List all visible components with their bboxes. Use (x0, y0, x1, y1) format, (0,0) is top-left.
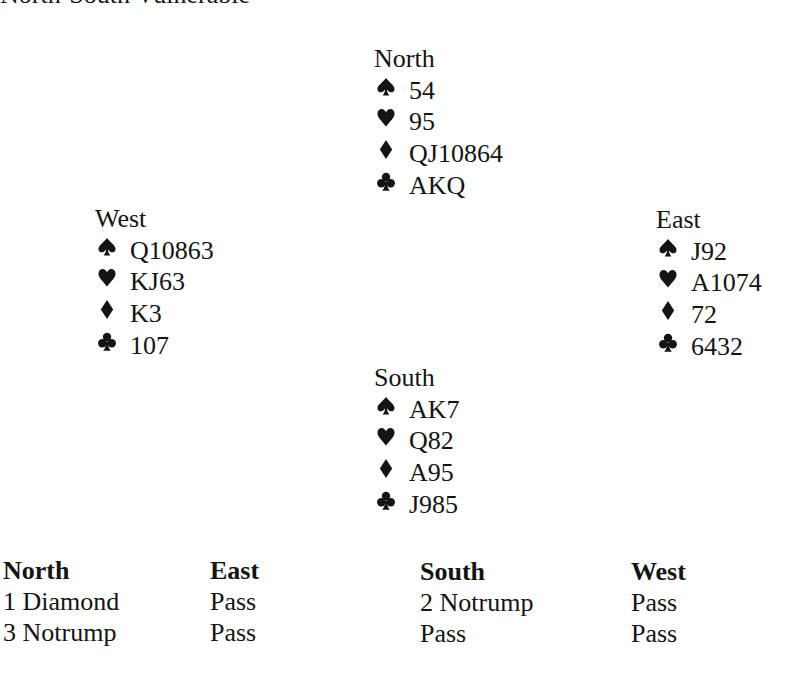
cards-diamonds: A95 (409, 457, 454, 489)
suit-row-clubs: 6432 (656, 331, 762, 363)
spade-icon (374, 396, 409, 416)
cards-diamonds: 72 (691, 299, 717, 331)
auction-header: North (3, 555, 119, 586)
suit-row-spades: J92 (656, 236, 762, 268)
diamond-icon (95, 300, 130, 320)
club-icon (374, 172, 409, 192)
cards-diamonds: QJ10864 (409, 138, 503, 170)
suit-row-diamonds: QJ10864 (374, 138, 503, 170)
cards-clubs: J985 (409, 489, 458, 521)
cards-diamonds: K3 (130, 298, 162, 330)
suit-row-diamonds: A95 (374, 457, 460, 489)
auction-bid: 2 Notrump (420, 587, 533, 618)
cards-clubs: 6432 (691, 331, 743, 363)
spade-icon (95, 237, 130, 257)
spade-icon (374, 77, 409, 97)
auction-column-north: North 1 Diamond 3 Notrump (3, 555, 119, 648)
cards-spades: J92 (691, 236, 727, 268)
suit-row-diamonds: 72 (656, 299, 762, 331)
cards-hearts: Q82 (409, 425, 454, 457)
club-icon (656, 333, 691, 353)
auction-bid: Pass (420, 618, 533, 649)
club-icon (374, 491, 409, 511)
auction-header: West (631, 556, 686, 587)
auction-column-west: West Pass Pass (631, 556, 686, 649)
hand-south: South AK7 Q82 A95 J985 (374, 362, 460, 520)
hand-label: North (374, 43, 503, 75)
diamond-icon (656, 301, 691, 321)
spade-icon (656, 238, 691, 258)
vulnerability-title: North-South Vulnerable (0, 0, 250, 11)
diamond-icon (374, 459, 409, 479)
hand-label: East (656, 204, 762, 236)
hand-east: East J92 A1074 72 6432 (656, 204, 762, 362)
hand-north: North 54 95 QJ10864 AKQ (374, 43, 503, 201)
cards-spades: 54 (409, 75, 435, 107)
hand-label: West (95, 203, 214, 235)
cards-hearts: A1074 (691, 267, 762, 299)
club-icon (95, 332, 130, 352)
auction-bid: Pass (210, 617, 259, 648)
suit-row-hearts: 95 (374, 106, 503, 138)
cards-hearts: KJ63 (130, 266, 185, 298)
auction-bid: 1 Diamond (3, 586, 119, 617)
heart-icon (656, 269, 691, 289)
auction-column-south: South 2 Notrump Pass (420, 556, 533, 649)
cards-spades: AK7 (409, 394, 460, 426)
cards-clubs: AKQ (409, 170, 465, 202)
hand-label: South (374, 362, 460, 394)
auction-bid: Pass (210, 586, 259, 617)
suit-row-hearts: Q82 (374, 425, 460, 457)
auction-header: South (420, 556, 533, 587)
suit-row-hearts: KJ63 (95, 266, 214, 298)
suit-row-clubs: AKQ (374, 170, 503, 202)
heart-icon (374, 427, 409, 447)
suit-row-spades: 54 (374, 75, 503, 107)
heart-icon (95, 268, 130, 288)
cards-spades: Q10863 (130, 235, 214, 267)
auction-bid: Pass (631, 587, 686, 618)
auction-header: East (210, 555, 259, 586)
auction-bid: 3 Notrump (3, 617, 119, 648)
heart-icon (374, 108, 409, 128)
suit-row-spades: Q10863 (95, 235, 214, 267)
hand-west: West Q10863 KJ63 K3 107 (95, 203, 214, 361)
diamond-icon (374, 140, 409, 160)
suit-row-hearts: A1074 (656, 267, 762, 299)
suit-row-clubs: J985 (374, 489, 460, 521)
cards-clubs: 107 (130, 330, 169, 362)
suit-row-diamonds: K3 (95, 298, 214, 330)
suit-row-clubs: 107 (95, 330, 214, 362)
cards-hearts: 95 (409, 106, 435, 138)
auction-bid: Pass (631, 618, 686, 649)
suit-row-spades: AK7 (374, 394, 460, 426)
auction-column-east: East Pass Pass (210, 555, 259, 648)
